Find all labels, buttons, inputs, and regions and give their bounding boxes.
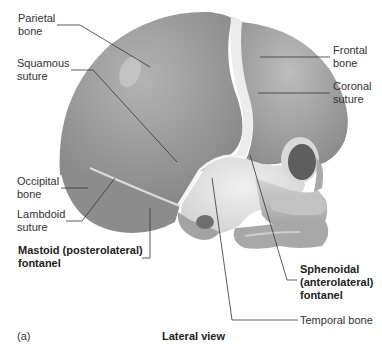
- label-parietal-bone: Parietal bone: [18, 12, 55, 38]
- label-squamous-suture: Squamous suture: [17, 57, 70, 83]
- view-title: Lateral view: [162, 330, 225, 342]
- label-temporal-bone: Temporal bone: [300, 314, 373, 327]
- label-coronal-suture: Coronal suture: [333, 80, 372, 106]
- label-occipital-bone: Occipital bone: [17, 175, 59, 201]
- fetal-skull-figure: Parietal bone Squamous suture Frontal bo…: [0, 0, 382, 351]
- panel-letter: (a): [17, 330, 30, 342]
- label-frontal-bone: Frontal bone: [333, 44, 367, 70]
- label-sphenoidal-fontanel: Sphenoidal (anterolateral) fontanel: [300, 263, 373, 302]
- label-lambdoid-suture: Lambdoid suture: [17, 208, 65, 234]
- label-mastoid-fontanel: Mastoid (posterolateral) fontanel: [18, 244, 143, 270]
